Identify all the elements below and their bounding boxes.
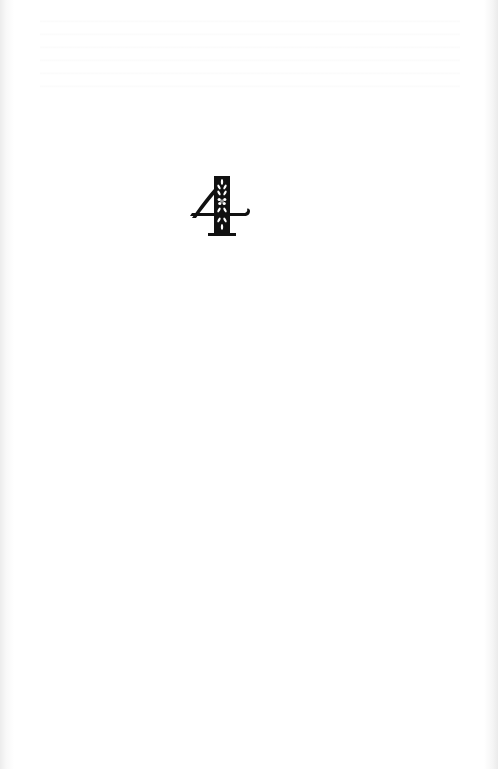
decorative-four-icon	[186, 172, 254, 240]
book-page: 4	[0, 0, 498, 769]
bleed-through-text	[40, 10, 460, 90]
chapter-number-ornament: 4	[186, 172, 254, 240]
